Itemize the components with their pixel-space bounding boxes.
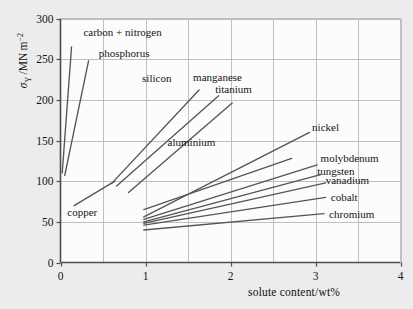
series-label-cobalt: cobalt — [331, 191, 358, 203]
series-label-titanium: titanium — [215, 83, 252, 95]
x-tick-label: 1 — [143, 270, 149, 282]
series-label-manganese: manganese — [193, 71, 242, 83]
solid-solution-strengthening-chart: σY /MN m−2 solute content/wt% 0501001502… — [0, 0, 413, 309]
x-tick-label: 2 — [228, 270, 234, 282]
series-label-vanadium: vanadium — [326, 174, 370, 186]
x-axis-label: solute content/wt% — [248, 286, 340, 298]
series-label-aluminium: aluminium — [168, 136, 216, 148]
series-label-phosphorus: phosphorus — [99, 47, 150, 59]
y-tick-label: 50 — [42, 216, 54, 228]
series-label-copper: copper — [67, 206, 97, 218]
series-label-nickel: nickel — [312, 121, 339, 133]
series-label-carbon-nitrogen: carbon + nitrogen — [83, 26, 162, 38]
series-label-silicon: silicon — [142, 72, 172, 84]
y-tick-label: 100 — [36, 175, 54, 187]
x-tick-label: 4 — [398, 270, 404, 282]
x-tick-label: 3 — [313, 270, 319, 282]
y-tick-label: 150 — [36, 135, 54, 147]
series-label-chromium: chromium — [329, 208, 375, 220]
x-tick-label: 0 — [58, 270, 64, 282]
y-axis-label: σY /MN m−2 — [15, 15, 32, 107]
y-tick-label: 200 — [36, 94, 54, 106]
y-tick-label: 0 — [48, 257, 54, 269]
series-label-molybdenum: molybdenum — [321, 152, 379, 164]
y-tick-label: 250 — [36, 53, 54, 65]
y-axis-label-text: σY /MN m−2 — [17, 33, 29, 88]
plot-canvas: 05010015020025030001234 carbon + nitroge… — [0, 0, 413, 309]
y-tick-label: 300 — [36, 13, 54, 25]
